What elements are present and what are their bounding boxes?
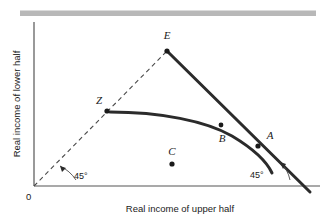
point-marker-E (164, 48, 169, 53)
forty-five-degree-ray (34, 51, 167, 186)
point-marker-A (255, 143, 260, 148)
point-label-A: A (266, 129, 274, 141)
point-label-E: E (163, 29, 171, 41)
origin-label: 0 (26, 191, 31, 202)
point-label-B: B (219, 132, 226, 144)
point-marker-Z (104, 108, 109, 113)
point-marker-C (169, 161, 174, 166)
transformation-curve (110, 112, 272, 173)
point-marker-B (219, 123, 224, 128)
y-axis-label: Real income of lower half (11, 50, 22, 157)
point-label-Z: Z (96, 94, 103, 106)
point-label-C: C (168, 145, 176, 157)
right-angle-label: 45° (250, 170, 264, 180)
x-axis-label: Real income of upper half (126, 203, 235, 214)
figure-canvas: 45° 45° E Z B A C 0 Real income of upper… (0, 0, 334, 218)
left-angle-label: 45° (74, 171, 88, 181)
scan-artifact-bar (20, 11, 316, 17)
